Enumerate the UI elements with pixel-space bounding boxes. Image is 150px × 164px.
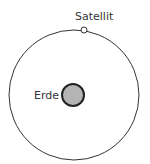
orbit-diagram: Satellit Erde: [0, 0, 150, 164]
earth-label: Erde: [34, 89, 59, 102]
satellite-label: Satellit: [75, 10, 114, 23]
earth-icon: [62, 84, 84, 106]
diagram-canvas: Satellit Erde: [0, 0, 150, 164]
satellite-icon: [81, 27, 87, 33]
